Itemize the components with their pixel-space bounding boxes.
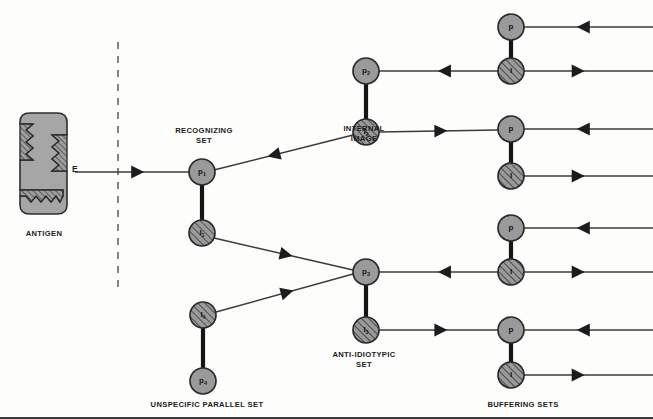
arrow-i3-to-b4p-head bbox=[434, 324, 447, 337]
arrow-p2-to-b1i bbox=[379, 65, 498, 78]
node-b3i[interactable] bbox=[498, 259, 524, 285]
label-internal-image: INTERNAL IMAGE bbox=[284, 124, 444, 143]
node-p1[interactable] bbox=[189, 159, 215, 185]
arrow-b4p-row bbox=[524, 324, 653, 337]
node-b4i[interactable] bbox=[498, 362, 524, 388]
arrow-b4i-row bbox=[524, 369, 653, 382]
arrow-b3p-row bbox=[524, 222, 653, 235]
arrow-b1p-row bbox=[524, 21, 653, 34]
node-p4[interactable] bbox=[190, 368, 216, 394]
arrow-b2i-row bbox=[524, 170, 653, 183]
label-buffering-sets: BUFFERING SETS bbox=[443, 400, 603, 410]
arrow-i4-to-p3 bbox=[216, 274, 353, 312]
arrow-b4i-row-head bbox=[572, 369, 585, 382]
node-b1p[interactable] bbox=[498, 14, 524, 40]
node-b2p[interactable] bbox=[498, 116, 524, 142]
arrow-b3i-row bbox=[524, 266, 653, 279]
label-anti-idiotypic-set: ANTI-IDIOTYPIC SET bbox=[284, 350, 444, 369]
arrow-b2p-row bbox=[524, 123, 653, 136]
node-b2i[interactable] bbox=[498, 163, 524, 189]
diagram-canvas: E RECOGNIZING SETINTERNAL IMAGEANTI-IDIO… bbox=[0, 0, 653, 419]
arrow-antigen-to-p1-head bbox=[131, 166, 144, 179]
node-p3[interactable] bbox=[353, 259, 379, 285]
arrow-i1-to-p3-head bbox=[279, 247, 293, 259]
node-b4p[interactable] bbox=[498, 317, 524, 343]
epitope-label: E bbox=[72, 165, 78, 175]
arrow-b1i-row-head bbox=[572, 65, 585, 78]
arrow-i3-to-b4p bbox=[379, 324, 498, 337]
thick-links-layer bbox=[202, 40, 511, 368]
node-b1i[interactable] bbox=[498, 58, 524, 84]
arrow-b2p-row-head bbox=[577, 123, 590, 136]
arrow-b2i-row-head bbox=[572, 170, 585, 183]
node-i3[interactable] bbox=[353, 317, 379, 343]
node-b3p[interactable] bbox=[498, 215, 524, 241]
arrow-antigen-to-p1 bbox=[75, 166, 189, 179]
arrow-b1p-row-head bbox=[577, 21, 590, 34]
arrow-i1-to-p3 bbox=[214, 238, 353, 270]
arrow-b4p-row-head bbox=[577, 324, 590, 337]
node-i1[interactable] bbox=[189, 220, 215, 246]
label-unspecific-parallel: UNSPECIFIC PARALLEL SET bbox=[127, 400, 287, 410]
label-recognizing-set: RECOGNIZING SET bbox=[124, 126, 284, 145]
arrow-b3i-row-head bbox=[572, 266, 585, 279]
arrow-i4-to-p3-head bbox=[279, 288, 293, 300]
arrow-b3p-row-head bbox=[577, 222, 590, 235]
node-p2[interactable] bbox=[353, 58, 379, 84]
arrow-p2-to-b1i-head bbox=[438, 65, 451, 78]
label-antigen-caption: ANTIGEN bbox=[0, 229, 124, 239]
arrow-p3-to-b3i bbox=[379, 266, 498, 279]
arrow-b1i-row bbox=[524, 65, 653, 78]
node-i4[interactable] bbox=[190, 302, 216, 328]
antigen-shape bbox=[20, 113, 67, 214]
arrow-p3-to-b3i-head bbox=[438, 266, 451, 279]
arrow-i2-to-p1-head bbox=[267, 147, 281, 159]
